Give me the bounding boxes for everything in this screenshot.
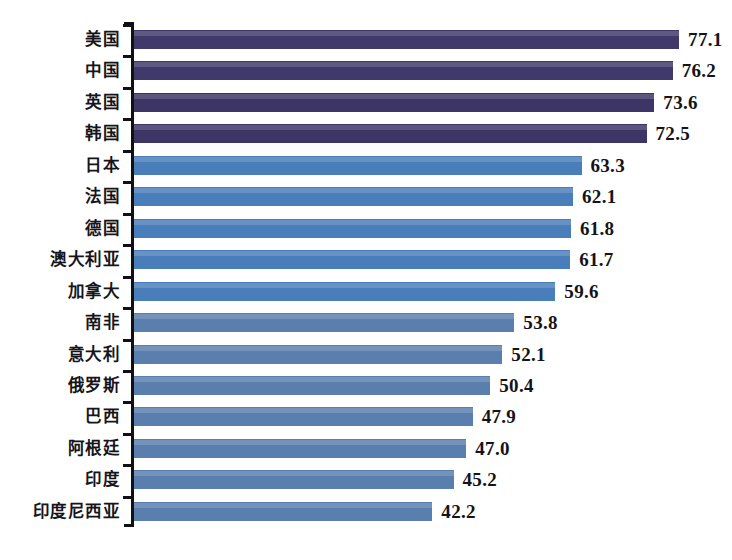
axis-tick: [123, 244, 134, 247]
bar-value-label: 59.6: [564, 277, 598, 306]
bar-value-label: 62.1: [582, 182, 616, 211]
category-label: 加拿大: [68, 276, 121, 308]
bar: [134, 30, 679, 49]
bar: [134, 282, 555, 301]
axis-tick: [123, 55, 134, 58]
axis-tick: [123, 150, 134, 153]
bar-row: 韩国72.5: [0, 118, 732, 150]
axis-tick: [123, 339, 134, 342]
plot-area: 美国77.1中国76.2英国73.6韩国72.5日本63.3法国62.1德国61…: [0, 0, 732, 560]
bar-value-label: 72.5: [656, 119, 690, 148]
bar-row: 中国76.2: [0, 55, 732, 87]
bar-value-label: 45.2: [463, 465, 497, 494]
axis-tick: [123, 181, 134, 184]
category-label: 巴西: [85, 401, 120, 433]
category-label: 澳大利亚: [50, 244, 120, 276]
category-label: 印度: [85, 464, 120, 496]
bar-row: 澳大利亚61.7: [0, 244, 732, 276]
category-label: 俄罗斯: [68, 370, 121, 402]
category-label: 英国: [85, 87, 120, 119]
category-label: 中国: [85, 55, 120, 87]
category-label: 法国: [85, 181, 120, 213]
axis-tick: [123, 24, 134, 27]
bar-row: 意大利52.1: [0, 339, 732, 371]
axis-tick: [123, 433, 134, 436]
bar: [134, 376, 490, 395]
axis-tick: [123, 464, 134, 467]
bar: [134, 439, 466, 458]
bar-value-label: 53.8: [523, 308, 557, 337]
axis-tick: [123, 307, 134, 310]
bar-value-label: 77.1: [688, 25, 722, 54]
bar: [134, 250, 570, 269]
bar-row: 印度尼西亚42.2: [0, 496, 732, 528]
bar: [134, 219, 571, 238]
bar-chart: 美国77.1中国76.2英国73.6韩国72.5日本63.3法国62.1德国61…: [0, 0, 732, 560]
bar: [134, 61, 673, 80]
axis-tick: [123, 213, 134, 216]
bar-value-label: 42.2: [441, 497, 475, 526]
category-label: 德国: [85, 213, 120, 245]
bar-row: 俄罗斯50.4: [0, 370, 732, 402]
bar-value-label: 47.0: [475, 434, 509, 463]
bar-value-label: 73.6: [663, 88, 697, 117]
category-label: 阿根廷: [68, 433, 121, 465]
bar-row: 巴西47.9: [0, 401, 732, 433]
bar-row: 英国73.6: [0, 87, 732, 119]
bar-value-label: 76.2: [682, 56, 716, 85]
bar: [134, 345, 502, 364]
axis-tick: [123, 118, 134, 121]
bar-row: 法国62.1: [0, 181, 732, 213]
axis-tick: [123, 496, 134, 499]
bar-row: 日本63.3: [0, 150, 732, 182]
axis-tick: [123, 370, 134, 373]
bar: [134, 156, 582, 175]
bar-row: 德国61.8: [0, 213, 732, 245]
bar-row: 加拿大59.6: [0, 276, 732, 308]
bar: [134, 502, 432, 521]
bar-row: 阿根廷47.0: [0, 433, 732, 465]
bar: [134, 407, 473, 426]
bar-value-label: 52.1: [511, 340, 545, 369]
bar-value-label: 61.7: [579, 245, 613, 274]
bar-row: 美国77.1: [0, 24, 732, 56]
bar-value-label: 63.3: [591, 151, 625, 180]
bar: [134, 470, 454, 489]
category-label: 意大利: [68, 339, 121, 371]
bar: [134, 187, 573, 206]
category-label: 南非: [85, 307, 120, 339]
axis-tick: [123, 87, 134, 90]
category-label: 印度尼西亚: [33, 496, 121, 528]
bar-value-label: 61.8: [580, 214, 614, 243]
category-label: 日本: [85, 150, 120, 182]
bar: [134, 93, 654, 112]
bar-row: 印度45.2: [0, 464, 732, 496]
bar-value-label: 47.9: [482, 402, 516, 431]
category-label: 韩国: [85, 118, 120, 150]
axis-tick: [123, 276, 134, 279]
bar-value-label: 50.4: [499, 371, 533, 400]
bar-row: 南非53.8: [0, 307, 732, 339]
bar: [134, 124, 647, 143]
category-label: 美国: [85, 24, 120, 56]
bar: [134, 313, 514, 332]
axis-tick: [123, 401, 134, 404]
